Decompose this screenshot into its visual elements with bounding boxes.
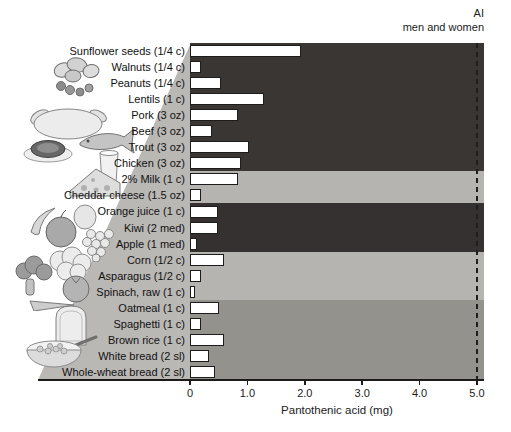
pantothenic-acid-chart: AI men and women xyxy=(0,0,511,432)
food-label: Cheddar cheese (1.5 oz) xyxy=(0,187,187,203)
x-axis-tick xyxy=(419,381,421,385)
food-bar xyxy=(190,334,224,346)
food-label: Asparagus (1/2 c) xyxy=(0,268,187,284)
food-bar xyxy=(190,45,301,57)
labels-column: Sunflower seeds (1/4 c)Walnuts (1/4 c)Pe… xyxy=(0,43,187,380)
x-axis-tick-label: 2.0 xyxy=(297,387,312,399)
x-axis-tick-label: 0 xyxy=(187,387,193,399)
food-bar xyxy=(190,206,218,218)
food-label: Chicken (3 oz) xyxy=(0,155,187,171)
food-label: Kiwi (2 med) xyxy=(0,220,187,236)
food-bar xyxy=(190,222,218,234)
food-bar xyxy=(190,350,209,362)
food-bar xyxy=(190,109,238,121)
ai-reference-label-line2: men and women xyxy=(403,20,484,34)
food-label: Lentils (1 c) xyxy=(0,91,187,107)
food-bar xyxy=(190,141,249,153)
x-axis-tick xyxy=(247,381,249,385)
food-label: Sunflower seeds (1/4 c) xyxy=(0,43,187,59)
x-axis-tick-label: 3.0 xyxy=(355,387,370,399)
x-axis-title: Pantothenic acid (mg) xyxy=(190,404,484,416)
band-fruits xyxy=(190,203,484,251)
food-label: Spaghetti (1 c) xyxy=(0,316,187,332)
food-label: Whole-wheat bread (2 sl) xyxy=(0,364,187,380)
food-bar xyxy=(190,125,212,137)
food-bar xyxy=(190,254,224,266)
food-bar xyxy=(190,270,201,282)
x-axis-tick xyxy=(361,381,363,385)
food-label: Oatmeal (1 c) xyxy=(0,300,187,316)
food-label: Apple (1 med) xyxy=(0,236,187,252)
food-bar xyxy=(190,238,197,250)
food-label: White bread (2 sl) xyxy=(0,348,187,364)
food-bar xyxy=(190,173,238,185)
x-axis-tick xyxy=(476,381,478,385)
band-grains xyxy=(190,300,484,380)
food-bar xyxy=(190,366,215,378)
food-label: Walnuts (1/4 c) xyxy=(0,59,187,75)
band-vegetables xyxy=(190,252,484,300)
food-label: Orange juice (1 c) xyxy=(0,203,187,219)
x-axis-tick xyxy=(189,381,191,385)
food-label: Corn (1/2 c) xyxy=(0,252,187,268)
ai-reference-label: AI men and women xyxy=(403,6,484,34)
food-label: Peanuts (1/4 c) xyxy=(0,75,187,91)
food-label: Spinach, raw (1 c) xyxy=(0,284,187,300)
food-bar xyxy=(190,302,219,314)
food-bar xyxy=(190,189,201,201)
ai-reference-label-line1: AI xyxy=(403,6,484,20)
food-bar xyxy=(190,61,201,73)
x-axis-tick-label: 1.0 xyxy=(240,387,255,399)
food-label: Trout (3 oz) xyxy=(0,139,187,155)
food-bar xyxy=(190,77,221,89)
food-bar xyxy=(190,93,264,105)
food-bar xyxy=(190,286,195,298)
ai-dashed-line xyxy=(476,43,478,380)
x-axis-tick-label: 4.0 xyxy=(412,387,427,399)
x-axis-tick xyxy=(304,381,306,385)
food-bar xyxy=(190,318,201,330)
food-bar xyxy=(190,157,241,169)
food-label: Pork (3 oz) xyxy=(0,107,187,123)
plot-area xyxy=(190,43,484,380)
food-label: 2% Milk (1 c) xyxy=(0,171,187,187)
food-label: Brown rice (1 c) xyxy=(0,332,187,348)
x-axis-tick-label: 5.0 xyxy=(469,387,484,399)
food-label: Beef (3 oz) xyxy=(0,123,187,139)
